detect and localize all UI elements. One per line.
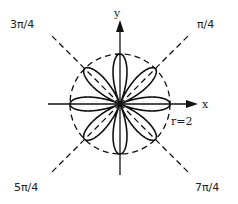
y-axis-arrow-icon — [116, 20, 124, 32]
angle-label-5pi-4: 5π/4 — [14, 181, 38, 194]
y-axis-label: y — [113, 7, 121, 20]
angle-label-3pi-4: 3π/4 — [10, 18, 34, 31]
angle-label-pi-4: π/4 — [197, 18, 214, 31]
x-axis-arrow-icon — [186, 100, 198, 108]
angle-label-7pi-4: 7π/4 — [195, 181, 219, 194]
polar-rose-diagram: x y r=2 π/4 3π/4 5π/4 7π/4 — [0, 0, 238, 204]
circle-radius-label: r=2 — [171, 115, 192, 128]
x-axis-label: x — [202, 98, 209, 111]
